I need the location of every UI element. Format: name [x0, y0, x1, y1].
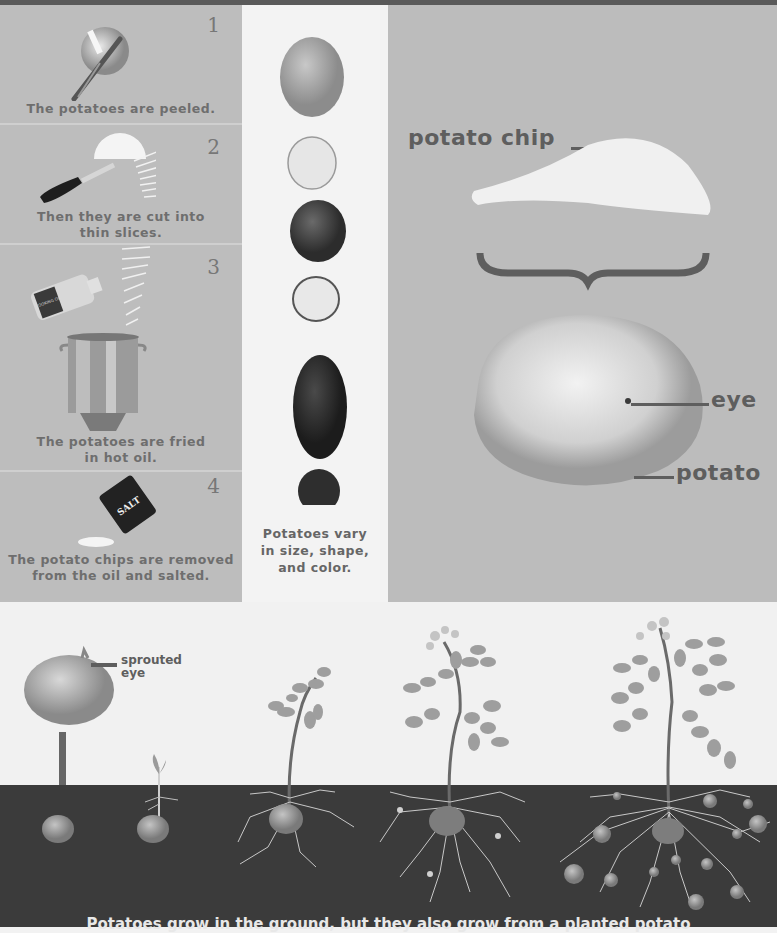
step-caption: The potatoes are peeled.: [0, 101, 242, 117]
step-caption-line2: from the oil and salted.: [0, 568, 242, 584]
varieties-caption-line1: Potatoes vary: [242, 525, 388, 542]
brace-icon: [480, 253, 706, 283]
frying-pot-icon: COOKING OIL: [26, 245, 186, 435]
step-number: 1: [207, 13, 220, 37]
sprouted-eye-label: sprouted eye: [121, 654, 182, 680]
steps-panel: 1 The potatoes are peeled. 2 Then they a…: [0, 5, 242, 602]
step-number: 2: [207, 135, 220, 159]
potato-label: potato: [676, 460, 761, 485]
step-number: 3: [207, 255, 220, 279]
step-1: 1 The potatoes are peeled.: [0, 5, 242, 123]
varieties-panel: Potatoes vary in size, shape, and color.: [242, 5, 388, 602]
knife-icon: [36, 131, 156, 211]
step-caption-line1: Then they are cut into: [0, 209, 242, 225]
salt-shaker-icon: SALT: [66, 472, 166, 552]
step-2: 2 Then they are cut into thin slices.: [0, 125, 242, 243]
step-caption-line2: in hot oil.: [0, 450, 242, 466]
stage-2-sprout: [137, 754, 178, 843]
potato-cut-light: [288, 137, 336, 189]
peeler-icon: [60, 11, 140, 101]
step-number: 4: [207, 474, 220, 498]
growth-section: sprouted eye Potatoes grow in the ground…: [0, 602, 777, 927]
potato-whole-long-dark: [293, 355, 347, 459]
potato-whole-dark: [290, 200, 346, 262]
stage-5-mature-plant: [560, 617, 770, 910]
varieties-caption-line3: and color.: [242, 559, 388, 576]
growth-caption: Potatoes grow in the ground, but they al…: [0, 915, 777, 933]
sprouted-eye-label-line2: eye: [121, 667, 182, 680]
stage-1-potato: [42, 815, 74, 843]
potato-cut-red: [293, 277, 339, 321]
step-4: 4 SALT The potato chips are removed from…: [0, 472, 242, 602]
eye-label: eye: [711, 387, 757, 412]
step-3: 3 COOKING OIL The potatoes are fried: [0, 245, 242, 470]
eye-pointer-line: [631, 403, 709, 406]
plant-stages: [0, 602, 777, 927]
varieties-caption-line2: in size, shape,: [242, 542, 388, 559]
stage-3-young-plant: [238, 667, 354, 867]
stage-4-flowering-plant: [380, 626, 525, 902]
comparison-panel: potato chip eye potato: [388, 5, 777, 602]
potato-cut-purple: [298, 469, 340, 505]
potato-whole-light: [280, 37, 344, 117]
step-caption-line1: The potatoes are fried: [0, 434, 242, 450]
step-caption-line2: thin slices.: [0, 225, 242, 241]
whole-potato-image: [388, 295, 777, 535]
potato-chip-image: [472, 138, 711, 215]
potato-pointer-line: [634, 476, 674, 479]
potato-varieties-illustration: [242, 5, 388, 505]
step-caption-line1: The potato chips are removed: [0, 552, 242, 568]
